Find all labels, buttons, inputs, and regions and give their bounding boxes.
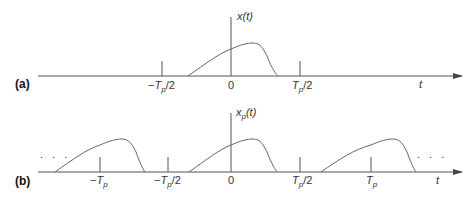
panel-a-label: (a)	[15, 77, 30, 91]
signal-label-a: x(t)	[236, 10, 253, 22]
axis-var-a: t	[419, 78, 423, 90]
tick-label-zero-a: 0	[228, 79, 234, 91]
tick-label-zero-b: 0	[228, 174, 234, 186]
tick-label-neg-period-b: −Tp	[90, 174, 108, 189]
periodic-extension-diagram: (a) x(t) t −Tp/2 0 Tp/2 (b) . . . . . . …	[0, 0, 472, 197]
panel-a: (a) x(t) t −Tp/2 0 Tp/2	[15, 10, 462, 94]
pulse-b-zero	[189, 139, 277, 172]
axis-var-b: t	[436, 174, 440, 186]
panel-b-label: (b)	[15, 174, 30, 188]
ellipsis-right: . . .	[417, 148, 447, 160]
ellipsis-left: . . .	[40, 148, 70, 160]
pulse-a	[188, 43, 278, 76]
tick-label-pos-period-b: Tp	[366, 174, 378, 189]
signal-label-b: xp(t)	[235, 106, 257, 121]
panel-b: (b) . . . . . . xp(t) t −Tp −Tp/2 0 Tp/2…	[15, 106, 462, 189]
tick-label-neg-half-period-a: −Tp/2	[148, 79, 175, 94]
tick-label-pos-half-period-a: Tp/2	[292, 79, 312, 94]
tick-label-pos-half-period-b: Tp/2	[292, 174, 312, 189]
pulse-b-pos-period	[321, 139, 416, 172]
tick-label-neg-half-period-b: −Tp/2	[154, 174, 181, 189]
